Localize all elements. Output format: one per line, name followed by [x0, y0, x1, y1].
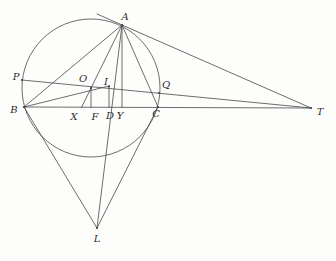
geometry-diagram: APOIQBXFDYCTL — [0, 0, 336, 261]
point-label-D: D — [105, 110, 114, 121]
point-label-P: P — [12, 71, 20, 82]
segment-B-L — [24, 107, 97, 228]
point-O — [90, 87, 92, 89]
segment-C-L — [97, 107, 158, 228]
point-label-X: X — [69, 111, 78, 122]
point-label-T: T — [317, 106, 325, 117]
point-label-F: F — [91, 111, 100, 122]
point-label-O: O — [79, 73, 87, 84]
point-I — [108, 85, 110, 87]
point-A — [121, 24, 123, 26]
point-B — [23, 106, 25, 108]
point-P — [21, 79, 23, 81]
point-label-B: B — [9, 104, 17, 115]
point-label-I: I — [103, 76, 109, 87]
point-label-A: A — [120, 11, 128, 22]
tangent-at-A-to-T — [97, 14, 311, 108]
point-label-L: L — [93, 233, 101, 244]
point-T — [310, 107, 312, 109]
line-B-C-T — [24, 107, 311, 108]
segment-A-D-L — [97, 25, 122, 228]
point-label-Q: Q — [162, 79, 170, 90]
segment-A-C — [122, 25, 158, 107]
point-Q — [158, 92, 160, 94]
point-label-Y: Y — [117, 110, 125, 121]
point-label-C: C — [152, 108, 160, 119]
point-L — [96, 227, 98, 229]
geometry-figure-container: APOIQBXFDYCTL — [0, 0, 336, 261]
segment-A-O-X — [82, 25, 123, 108]
